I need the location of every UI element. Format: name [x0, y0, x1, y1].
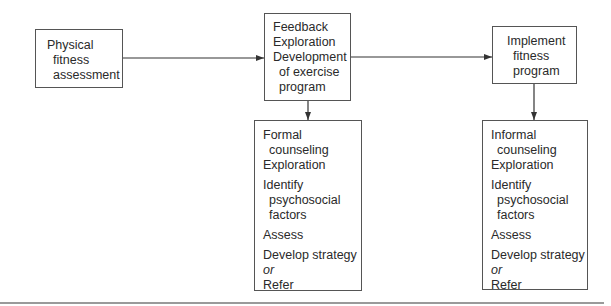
node-text: counseling	[263, 143, 361, 158]
node-formal-counseling: Formal counseling Exploration Identify p…	[254, 120, 362, 291]
node-text: counseling	[491, 143, 587, 158]
node-informal-counseling: Informal counseling Exploration Identify…	[482, 120, 588, 290]
node-text: fitness	[47, 53, 122, 68]
node-text: Implement	[507, 34, 576, 49]
node-text: psychosocial	[491, 193, 587, 208]
node-text: Physical	[47, 38, 122, 53]
node-feedback-development: Feedback Exploration Development of exer…	[264, 13, 351, 101]
node-text: Exploration	[263, 158, 361, 173]
node-text: Exploration	[491, 158, 587, 173]
node-text: Refer	[263, 278, 361, 293]
node-text: Exploration	[273, 35, 350, 50]
node-text: Identify	[491, 178, 587, 193]
node-text: program	[273, 80, 350, 95]
node-text: fitness	[507, 49, 576, 64]
node-physical-fitness-assessment: Physical fitness assessment	[35, 29, 123, 88]
node-text: Assess	[491, 228, 587, 243]
node-text: Feedback	[273, 20, 350, 35]
node-text: Develop strategy	[263, 248, 361, 263]
node-text: psychosocial	[263, 193, 361, 208]
node-text: Formal	[263, 128, 361, 143]
node-implement-fitness-program: Implement fitness program	[492, 26, 577, 84]
node-text: Development	[273, 50, 350, 65]
node-text: program	[507, 64, 576, 79]
node-text: factors	[491, 208, 587, 223]
node-text: Refer	[491, 278, 587, 293]
node-text: assessment	[47, 68, 122, 83]
node-text: Assess	[263, 228, 361, 243]
node-text: or	[491, 263, 587, 278]
node-text: Informal	[491, 128, 587, 143]
bottom-rule-divider	[0, 302, 604, 304]
node-text: factors	[263, 208, 361, 223]
node-text: Develop strategy	[491, 248, 587, 263]
node-text: of exercise	[273, 65, 350, 80]
node-text: or	[263, 263, 361, 278]
node-text: Identify	[263, 178, 361, 193]
